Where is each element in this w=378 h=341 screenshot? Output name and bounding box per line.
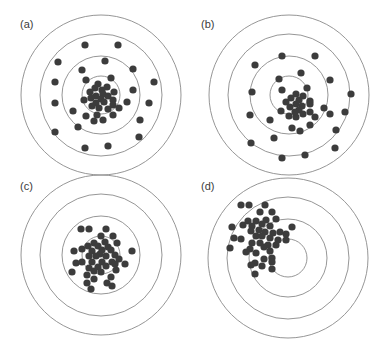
shot-dot bbox=[110, 88, 117, 95]
shot-dot bbox=[102, 252, 109, 259]
shot-dot bbox=[237, 235, 244, 242]
shot-dot bbox=[331, 144, 338, 151]
shot-dot bbox=[83, 271, 90, 278]
shot-dot bbox=[101, 57, 108, 64]
target-rings-d bbox=[208, 178, 368, 338]
shot-dot bbox=[102, 262, 109, 269]
shot-dot bbox=[261, 201, 268, 208]
shot-dot bbox=[270, 134, 277, 141]
shot-dot bbox=[82, 112, 89, 119]
target-ring-b-2 bbox=[228, 34, 350, 156]
shot-dot bbox=[245, 201, 252, 208]
shot-dot bbox=[268, 265, 275, 272]
shot-dot bbox=[311, 113, 318, 120]
shot-dot bbox=[228, 223, 235, 230]
shot-dot bbox=[86, 88, 93, 95]
shot-dot bbox=[278, 154, 285, 161]
shot-dot bbox=[145, 99, 152, 106]
shot-dot bbox=[150, 78, 157, 85]
shot-dot bbox=[272, 241, 279, 248]
shot-dot bbox=[268, 208, 275, 215]
shot-dot bbox=[129, 65, 136, 72]
shot-dot bbox=[90, 267, 97, 274]
shot-dot bbox=[74, 123, 81, 130]
shot-dot bbox=[114, 41, 121, 48]
shot-dot bbox=[266, 222, 273, 229]
target-rings-b bbox=[209, 15, 369, 175]
shot-dot bbox=[81, 144, 88, 151]
shot-dot bbox=[129, 86, 136, 93]
shot-dot bbox=[81, 41, 88, 48]
shot-dot bbox=[90, 117, 97, 124]
shot-dot bbox=[252, 249, 259, 256]
shot-dot bbox=[115, 104, 122, 111]
shot-dot bbox=[260, 243, 267, 250]
shot-dot bbox=[260, 255, 267, 262]
shot-dots-b bbox=[246, 52, 354, 161]
shot-dot bbox=[272, 215, 279, 222]
shot-dot bbox=[104, 142, 111, 149]
shot-dot bbox=[83, 279, 90, 286]
shot-dot bbox=[291, 108, 298, 115]
shot-dot bbox=[288, 223, 295, 230]
shot-dot bbox=[68, 268, 75, 275]
shot-dot bbox=[256, 208, 263, 215]
panel-label-c: (c) bbox=[20, 180, 33, 192]
shot-dot bbox=[69, 107, 76, 114]
shot-dot bbox=[277, 107, 284, 114]
shot-dot bbox=[82, 76, 89, 83]
shot-dot bbox=[248, 88, 255, 95]
shot-dot bbox=[326, 76, 333, 83]
shot-dot bbox=[247, 261, 254, 268]
shot-dot bbox=[80, 96, 87, 103]
shot-dot bbox=[258, 262, 265, 269]
shot-dot bbox=[299, 110, 306, 117]
shot-dot bbox=[242, 248, 249, 255]
shot-dot bbox=[97, 232, 104, 239]
shot-dot bbox=[121, 260, 128, 267]
shot-dot bbox=[288, 124, 295, 131]
shot-dot bbox=[296, 127, 303, 134]
shot-dot bbox=[95, 104, 102, 111]
shot-dot bbox=[320, 104, 327, 111]
shot-dots-c bbox=[68, 225, 135, 292]
shot-dot bbox=[87, 285, 94, 292]
shot-dot bbox=[306, 100, 313, 107]
target-panel-d: (d) bbox=[201, 178, 368, 338]
shot-dot bbox=[90, 275, 97, 282]
target-ring-b-1 bbox=[209, 15, 369, 175]
shot-dot bbox=[70, 247, 77, 254]
shot-dot bbox=[247, 139, 254, 146]
shot-dot bbox=[51, 78, 58, 85]
shot-dot bbox=[72, 259, 79, 266]
shot-dot bbox=[100, 98, 107, 105]
shot-dot bbox=[78, 258, 85, 265]
shot-dot bbox=[51, 99, 58, 106]
shot-dot bbox=[268, 258, 275, 265]
shot-dot bbox=[266, 234, 273, 241]
shot-dot bbox=[266, 247, 273, 254]
shot-dots-a bbox=[51, 41, 157, 151]
shot-dot bbox=[107, 273, 114, 280]
shot-dot bbox=[226, 244, 233, 251]
shot-dot bbox=[311, 52, 318, 59]
panel-label-d: (d) bbox=[201, 180, 214, 192]
shot-dot bbox=[85, 225, 92, 232]
shot-dot bbox=[326, 110, 333, 117]
shot-dot bbox=[341, 108, 348, 115]
shot-dot bbox=[258, 232, 265, 239]
target-ring-b-3 bbox=[250, 56, 328, 134]
shot-dot bbox=[51, 128, 58, 135]
shot-dot bbox=[54, 58, 61, 65]
shot-dot bbox=[230, 234, 237, 241]
target-panel-b: (b) bbox=[201, 15, 369, 175]
shot-dot bbox=[102, 225, 109, 232]
shot-dot bbox=[251, 270, 258, 277]
shot-dot bbox=[112, 266, 119, 273]
panel-label-a: (a) bbox=[20, 18, 33, 30]
target-ring-d-1 bbox=[208, 178, 368, 338]
shot-dot bbox=[303, 84, 310, 91]
shot-dot bbox=[246, 111, 253, 118]
shot-dot bbox=[104, 105, 111, 112]
shot-dot bbox=[109, 111, 116, 118]
